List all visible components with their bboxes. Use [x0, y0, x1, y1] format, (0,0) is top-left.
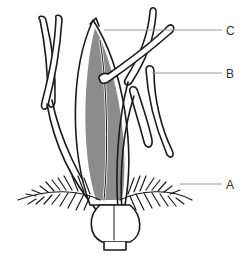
label-B: B [226, 67, 234, 81]
label-C: C [226, 24, 235, 38]
ovary-base [91, 205, 140, 250]
label-A: A [226, 178, 234, 192]
floret-diagram: C B A [0, 0, 250, 260]
